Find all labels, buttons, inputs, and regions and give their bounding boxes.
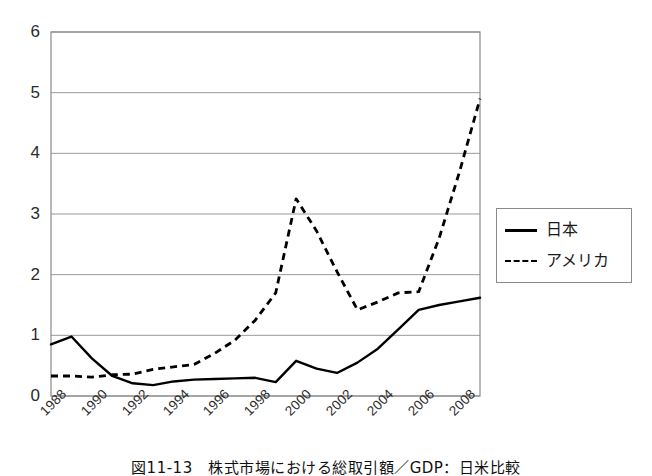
- legend-label-america: アメリカ: [546, 253, 609, 269]
- y-tick-label-1: 1: [14, 326, 40, 343]
- solid-line-key: [505, 224, 537, 236]
- gridlines: [51, 32, 480, 396]
- y-tick-label-5: 5: [14, 84, 40, 101]
- line-series-japan: [51, 298, 480, 385]
- legend-entry-japan: 日本: [505, 220, 578, 240]
- legend-entry-america: アメリカ: [505, 251, 609, 271]
- y-tick-label-4: 4: [14, 144, 40, 161]
- y-tick-label-0: 0: [14, 387, 40, 404]
- dashed-line-key: [505, 255, 537, 267]
- figure-caption: 図11-13 株式市場における総取引額／GDP：日米比較: [0, 456, 652, 476]
- y-tick-label-6: 6: [14, 23, 40, 40]
- figure-container: 0123456 19881990199219941996199820002002…: [0, 0, 652, 476]
- y-tick-label-3: 3: [14, 205, 40, 222]
- chart-legend: 日本 アメリカ: [496, 208, 632, 283]
- y-tick-label-2: 2: [14, 266, 40, 283]
- legend-label-japan: 日本: [546, 222, 578, 238]
